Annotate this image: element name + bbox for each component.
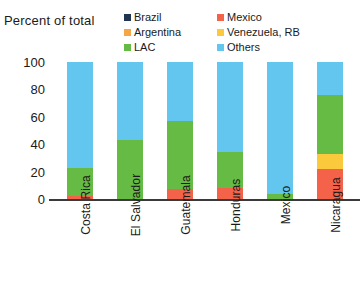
legend-item-argentina[interactable]: Argentina: [124, 25, 217, 40]
bar-segment[interactable]: [117, 62, 143, 140]
bar-segment[interactable]: [267, 62, 293, 194]
x-axis-line: [49, 199, 360, 201]
x-axis-tick-label: El Salvador: [130, 174, 142, 236]
y-axis-tick-label: 40: [31, 138, 45, 151]
legend-item-label: Mexico: [227, 12, 262, 23]
chart-header: Percent of total BrazilMexicoArgentinaVe…: [0, 0, 363, 56]
bar-segment[interactable]: [67, 62, 93, 167]
bar-group: [55, 62, 355, 199]
y-axis-tick-label: 60: [31, 111, 45, 124]
chart-legend: BrazilMexicoArgentinaVenezuela, RBLACOth…: [124, 10, 362, 55]
legend-swatch-icon: [217, 29, 224, 36]
x-axis-tick-label: Honduras: [230, 179, 242, 232]
bar-stack[interactable]: [267, 62, 293, 199]
legend-item-label: LAC: [134, 42, 155, 53]
legend-item-brazil[interactable]: Brazil: [124, 10, 217, 25]
legend-swatch-icon: [124, 44, 131, 51]
x-axis-slot: Nicaragua: [305, 203, 355, 285]
bar-segment[interactable]: [317, 62, 343, 95]
x-axis-slot: Costa Rica: [55, 203, 105, 285]
legend-swatch-icon: [124, 29, 131, 36]
x-axis-slot: Guatemala: [155, 203, 205, 285]
bar-segment[interactable]: [317, 154, 343, 169]
legend-swatch-icon: [124, 14, 131, 21]
legend-item-venezuela-rb[interactable]: Venezuela, RB: [217, 25, 362, 40]
legend-item-label: Argentina: [134, 27, 181, 38]
legend-item-lac[interactable]: LAC: [124, 40, 217, 55]
y-axis-tick-label: 0: [38, 193, 45, 206]
x-axis-tick-label: Mexico: [280, 186, 292, 225]
x-axis-tick-label: Costa Rica: [80, 175, 92, 235]
bar-slot: [255, 62, 305, 199]
bar-segment[interactable]: [167, 62, 193, 121]
bar-segment[interactable]: [317, 95, 343, 154]
legend-swatch-icon: [217, 44, 224, 51]
x-axis-tick-label: Nicaragua: [330, 177, 342, 233]
x-axis-slot: El Salvador: [105, 203, 155, 285]
plot-area: [55, 62, 355, 199]
legend-item-label: Brazil: [134, 12, 162, 23]
legend-item-label: Venezuela, RB: [227, 27, 300, 38]
chart-axis-title: Percent of total: [4, 13, 95, 28]
y-axis-tick-label: 80: [31, 83, 45, 96]
y-axis: 020406080100: [0, 55, 48, 206]
y-axis-tick-label: 20: [31, 166, 45, 179]
bar-segment[interactable]: [217, 62, 243, 152]
x-axis-slot: Honduras: [205, 203, 255, 285]
y-axis-tick-label: 100: [23, 56, 45, 69]
x-axis-slot: Mexico: [255, 203, 305, 285]
x-axis: Costa RicaEl SalvadorGuatemalaHondurasMe…: [55, 203, 355, 285]
x-axis-tick-label: Guatemala: [180, 175, 192, 235]
legend-item-others[interactable]: Others: [217, 40, 362, 55]
legend-swatch-icon: [217, 14, 224, 21]
stacked-bar-chart: Percent of total BrazilMexicoArgentinaVe…: [0, 0, 363, 285]
legend-item-label: Others: [227, 42, 260, 53]
legend-item-mexico[interactable]: Mexico: [217, 10, 362, 25]
